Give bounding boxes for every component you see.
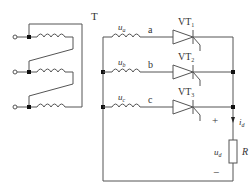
minus-sign: − — [213, 166, 219, 178]
primary-coil-2 — [29, 69, 73, 107]
three-phase-half-wave-rectifier-diagram: T ua a VT1 ub b VT2 — [0, 0, 252, 189]
secondary-circuit: ua a VT1 ub b VT2 uc c — [101, 16, 248, 181]
current-arrow-icon — [231, 117, 235, 123]
transformer-primary: T — [13, 10, 98, 109]
input-terminal-2 — [13, 70, 17, 74]
svg-text:VT3: VT3 — [178, 86, 194, 98]
junction-dot — [231, 105, 235, 109]
input-terminal-1 — [13, 35, 17, 39]
junction-dot — [231, 70, 235, 74]
junction-dot — [27, 105, 31, 109]
primary-coil-3 — [37, 104, 73, 107]
plus-sign: + — [212, 114, 218, 126]
svg-text:ub: ub — [118, 57, 126, 68]
input-terminal-3 — [13, 105, 17, 109]
thyristor-vt3-icon — [173, 100, 200, 121]
svg-text:VT1: VT1 — [178, 16, 194, 28]
load: id + R ud − — [212, 114, 248, 178]
vt1-label: VT — [178, 16, 191, 27]
vt2-label: VT — [178, 51, 191, 62]
resistor-icon — [229, 140, 237, 163]
svg-text:ud: ud — [214, 147, 223, 158]
junction-dot — [27, 70, 31, 74]
svg-text:VT2: VT2 — [178, 51, 194, 63]
transformer-label: T — [91, 10, 98, 22]
junction-dot — [27, 35, 31, 39]
thyristor-vt1-icon — [173, 30, 200, 51]
node-c-label: c — [148, 94, 153, 105]
resistor-label: R — [241, 146, 248, 157]
node-b-label: b — [148, 59, 153, 70]
node-a-label: a — [148, 24, 153, 35]
svg-text:ua: ua — [118, 22, 126, 33]
primary-coil-1 — [29, 34, 73, 72]
svg-text:uc: uc — [118, 92, 126, 103]
phase-a-branch: ua a VT1 — [103, 16, 233, 51]
phase-b-branch: ub b VT2 — [103, 51, 233, 86]
svg-text:id: id — [239, 117, 246, 128]
thyristor-vt2-icon — [173, 65, 200, 86]
vt3-label: VT — [178, 86, 191, 97]
